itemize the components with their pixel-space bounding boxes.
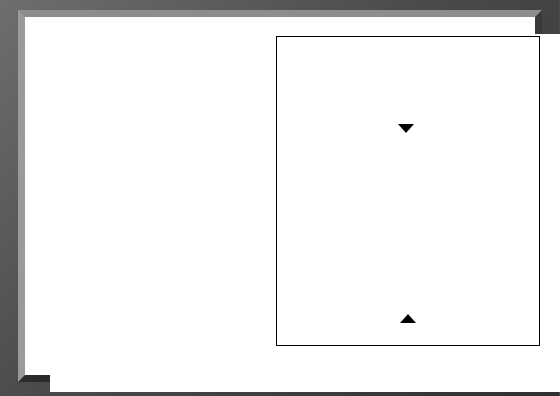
chart [240, 36, 558, 386]
plot-area [276, 36, 540, 346]
frame-bevel [18, 10, 542, 382]
pointer-down-icon [398, 124, 414, 133]
text-column [58, 39, 238, 52]
y-axis-labels [240, 36, 272, 356]
pointer-up-icon [400, 314, 416, 323]
x-axis-labels [276, 346, 540, 376]
infographic-card [50, 34, 560, 392]
chart-svg [277, 37, 541, 347]
